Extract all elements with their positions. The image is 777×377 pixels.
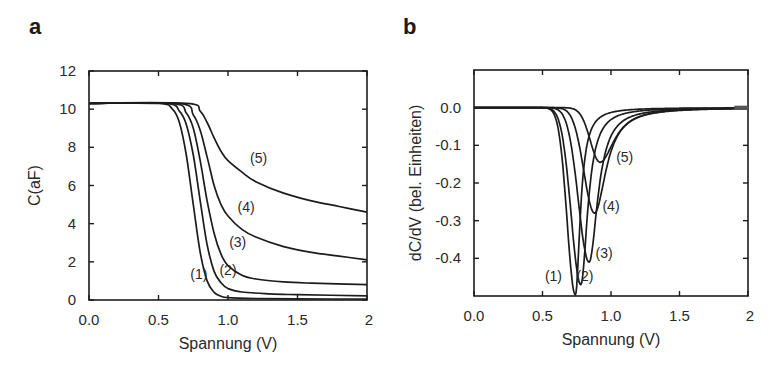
y-tick-label: -0.4 bbox=[435, 249, 461, 266]
curve-label: (2) bbox=[576, 268, 593, 284]
y-axis-label: dC/dV (bel. Einheiten) bbox=[407, 105, 424, 262]
y-axis-label: C(aF) bbox=[26, 165, 43, 206]
curve-label: (3) bbox=[229, 234, 246, 250]
x-tick-label: 0.0 bbox=[79, 311, 100, 328]
y-tick-label: 0 bbox=[68, 291, 76, 308]
x-tick-label: 1.0 bbox=[601, 307, 622, 324]
curve-label: (1) bbox=[190, 266, 207, 282]
x-tick-label: 2 bbox=[365, 311, 373, 328]
x-axis-label: Spannung (V) bbox=[179, 335, 278, 352]
x-tick-label: 1.5 bbox=[287, 311, 308, 328]
x-tick-label: 0.0 bbox=[464, 307, 485, 324]
panel-b-derivative-chart: b 0.00.51.01.520.0-0.1-0.2-0.3-0.4Spannu… bbox=[390, 0, 777, 377]
x-tick-label: 0.5 bbox=[148, 311, 169, 328]
y-tick-label: 6 bbox=[68, 177, 76, 194]
x-tick-label: 0.5 bbox=[532, 307, 553, 324]
y-tick-label: 0.0 bbox=[440, 99, 461, 116]
curve-label: (4) bbox=[238, 199, 255, 215]
y-tick-label: -0.3 bbox=[435, 212, 461, 229]
curve-label: (4) bbox=[602, 198, 619, 214]
curve-5 bbox=[89, 103, 367, 212]
x-axis-label: Spannung (V) bbox=[562, 331, 661, 348]
curve-label: (1) bbox=[545, 268, 562, 284]
y-tick-label: 2 bbox=[68, 253, 76, 270]
y-tick-label: 4 bbox=[68, 215, 76, 232]
y-tick-label: 10 bbox=[59, 100, 76, 117]
y-tick-label: -0.2 bbox=[435, 174, 461, 191]
curve-3 bbox=[89, 103, 367, 285]
x-tick-label: 1.0 bbox=[218, 311, 239, 328]
curve-3 bbox=[474, 108, 748, 262]
y-tick-label: 12 bbox=[59, 62, 76, 79]
x-tick-label: 1.5 bbox=[669, 307, 690, 324]
plot-frame bbox=[474, 70, 748, 296]
chart-a-plot: 0.00.51.01.52024681012Spannung (V)C(aF)(… bbox=[0, 0, 390, 377]
curve-4 bbox=[89, 103, 367, 260]
x-tick-label: 2 bbox=[746, 307, 754, 324]
y-tick-label: -0.1 bbox=[435, 136, 461, 153]
curve-label: (5) bbox=[250, 150, 267, 166]
curve-label: (3) bbox=[596, 245, 613, 261]
panel-a-capacitance-chart: a 0.00.51.01.52024681012Spannung (V)C(aF… bbox=[0, 0, 390, 377]
y-tick-label: 8 bbox=[68, 138, 76, 155]
curve-label: (5) bbox=[616, 149, 633, 165]
chart-b-plot: 0.00.51.01.520.0-0.1-0.2-0.3-0.4Spannung… bbox=[390, 0, 777, 377]
